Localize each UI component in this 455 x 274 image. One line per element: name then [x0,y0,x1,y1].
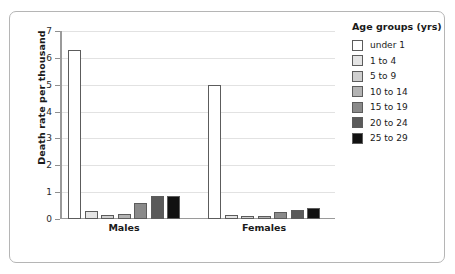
bar-group [68,31,184,219]
bar[interactable] [151,196,164,219]
bar[interactable] [291,210,304,219]
legend-items: under 11 to 45 to 910 to 1415 to 1920 to… [352,39,447,144]
legend-swatch [352,102,363,113]
bar[interactable] [225,215,238,219]
x-axis-label: Females [242,222,286,233]
bar[interactable] [307,208,320,219]
bar[interactable] [241,216,254,219]
legend-item[interactable]: 1 to 4 [352,55,447,67]
legend-swatch [352,40,363,51]
y-axis-tick-label: 0 [46,214,52,224]
legend: Age groups (yrs) under 11 to 45 to 910 t… [352,21,447,148]
legend-item[interactable]: 10 to 14 [352,86,447,98]
bar[interactable] [208,85,221,219]
bar[interactable] [167,196,180,219]
legend-swatch [352,71,363,82]
legend-item-label: 15 to 19 [370,102,408,112]
legend-swatch [352,133,363,144]
plot-axes: 01234567 MalesFemales [60,31,335,219]
legend-swatch [352,117,363,128]
legend-swatch [352,55,363,66]
y-axis-tick-label: 2 [46,160,52,170]
bar-chart: Death rate per thousand 01234567 MalesFe… [0,0,455,274]
legend-item-label: 1 to 4 [370,56,396,66]
legend-item[interactable]: 20 to 24 [352,117,447,129]
y-axis-tick-label: 4 [46,107,52,117]
legend-swatch [352,86,363,97]
y-axis-tick-label: 7 [46,26,52,36]
legend-item[interactable]: 25 to 29 [352,132,447,144]
legend-item-label: under 1 [370,40,405,50]
y-axis-title: Death rate per thousand [36,23,47,173]
legend-item-label: 25 to 29 [370,133,408,143]
y-axis-tick [55,219,60,220]
bar[interactable] [258,216,271,219]
bar[interactable] [85,211,98,219]
y-axis-tick-label: 3 [46,133,52,143]
legend-item[interactable]: 5 to 9 [352,70,447,82]
bar[interactable] [274,212,287,219]
legend-item-label: 5 to 9 [370,71,396,81]
bar[interactable] [118,214,131,219]
legend-item[interactable]: 15 to 19 [352,101,447,113]
legend-item-label: 20 to 24 [370,118,408,128]
bar[interactable] [68,50,81,219]
bar[interactable] [101,215,114,219]
y-axis-tick-label: 6 [46,53,52,63]
bar-group [208,31,324,219]
y-axis-tick-label: 5 [46,80,52,90]
x-axis-label: Males [108,222,139,233]
legend-item-label: 10 to 14 [370,87,408,97]
legend-title: Age groups (yrs) [352,21,447,32]
y-axis-tick-label: 1 [46,187,52,197]
bar-groups [60,31,335,219]
legend-item[interactable]: under 1 [352,39,447,51]
bar[interactable] [134,203,147,219]
